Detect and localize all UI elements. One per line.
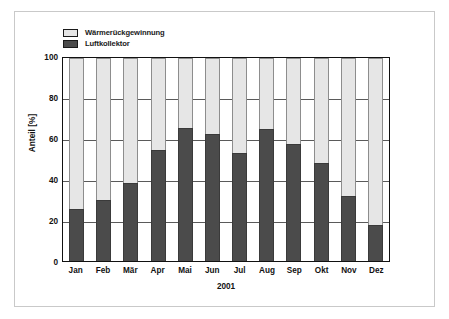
stacked-bar[interactable] — [151, 58, 166, 261]
y-tick-label: 40 — [16, 176, 58, 185]
y-tick-label: 80 — [16, 94, 58, 103]
bar-segment-luftkollektor[interactable] — [205, 134, 220, 261]
chart-legend: Wärmerückgewinnung Luftkollektor — [63, 28, 165, 48]
bar-slot — [362, 58, 389, 261]
bar-slot — [335, 58, 362, 261]
bar-segment-warmerueckgewinnung[interactable] — [123, 58, 138, 183]
bar-segment-luftkollektor[interactable] — [178, 128, 193, 261]
bar-slot — [117, 58, 144, 261]
bar-segment-warmerueckgewinnung[interactable] — [151, 58, 166, 150]
bar-segment-warmerueckgewinnung[interactable] — [286, 58, 301, 144]
plot-area — [62, 57, 390, 262]
bar-segment-warmerueckgewinnung[interactable] — [69, 58, 84, 209]
legend-swatch-warmerueckgewinnung — [63, 29, 78, 37]
bar-segment-luftkollektor[interactable] — [314, 163, 329, 261]
legend-label-warmerueckgewinnung: Wärmerückgewinnung — [85, 28, 165, 37]
bar-segment-luftkollektor[interactable] — [123, 183, 138, 261]
stacked-bar[interactable] — [232, 58, 247, 261]
bar-segment-luftkollektor[interactable] — [286, 144, 301, 261]
bar-slot — [199, 58, 226, 261]
y-tick-label: 20 — [16, 217, 58, 226]
bar-slot — [63, 58, 90, 261]
bar-segment-luftkollektor[interactable] — [232, 153, 247, 261]
x-tick-label: Feb — [89, 266, 116, 275]
bar-segment-warmerueckgewinnung[interactable] — [341, 58, 356, 196]
bar-segment-warmerueckgewinnung[interactable] — [368, 58, 383, 225]
x-tick-label: Dez — [363, 266, 390, 275]
stacked-bar[interactable] — [69, 58, 84, 261]
stacked-bar[interactable] — [341, 58, 356, 261]
stacked-bar[interactable] — [286, 58, 301, 261]
stacked-bar[interactable] — [205, 58, 220, 261]
bar-slot — [90, 58, 117, 261]
bar-segment-luftkollektor[interactable] — [341, 196, 356, 261]
stacked-bar[interactable] — [368, 58, 383, 261]
bar-segment-warmerueckgewinnung[interactable] — [259, 58, 274, 129]
bar-slot — [308, 58, 335, 261]
x-tick-label: Aug — [253, 266, 280, 275]
legend-swatch-luftkollektor — [63, 40, 78, 48]
x-axis-title: 2001 — [62, 282, 390, 291]
stacked-bar[interactable] — [314, 58, 329, 261]
bar-segment-warmerueckgewinnung[interactable] — [178, 58, 193, 128]
x-tick-label: Mär — [117, 266, 144, 275]
x-tick-label: Apr — [144, 266, 171, 275]
bar-segment-luftkollektor[interactable] — [96, 200, 111, 261]
bar-slot — [172, 58, 199, 261]
bar-segment-luftkollektor[interactable] — [69, 209, 84, 261]
y-axis-title: Anteil [%] — [27, 93, 37, 173]
bar-slot — [145, 58, 172, 261]
bar-segment-warmerueckgewinnung[interactable] — [232, 58, 247, 153]
bar-slot — [253, 58, 280, 261]
y-tick-label: 60 — [16, 135, 58, 144]
x-tick-label: Nov — [335, 266, 362, 275]
bar-slot — [226, 58, 253, 261]
bar-segment-warmerueckgewinnung[interactable] — [96, 58, 111, 200]
bar-slot — [280, 58, 307, 261]
x-tick-label: Jan — [62, 266, 89, 275]
stacked-bar[interactable] — [123, 58, 138, 261]
x-tick-label: Jul — [226, 266, 253, 275]
bar-segment-warmerueckgewinnung[interactable] — [314, 58, 329, 163]
stacked-bar[interactable] — [259, 58, 274, 261]
legend-item-warmerueckgewinnung: Wärmerückgewinnung — [63, 28, 165, 37]
x-tick-label: Okt — [308, 266, 335, 275]
stacked-bar[interactable] — [96, 58, 111, 261]
chart-figure: Wärmerückgewinnung Luftkollektor 100 80 … — [0, 0, 449, 319]
y-tick-label: 0 — [16, 258, 58, 267]
stacked-bar[interactable] — [178, 58, 193, 261]
bar-segment-luftkollektor[interactable] — [259, 129, 274, 261]
x-tick-label: Sep — [281, 266, 308, 275]
bar-segment-luftkollektor[interactable] — [368, 225, 383, 261]
y-tick-label: 100 — [16, 53, 58, 62]
legend-label-luftkollektor: Luftkollektor — [85, 39, 130, 48]
legend-item-luftkollektor: Luftkollektor — [63, 39, 165, 48]
x-tick-label: Jun — [199, 266, 226, 275]
bar-group — [63, 58, 389, 261]
bar-segment-warmerueckgewinnung[interactable] — [205, 58, 220, 134]
x-tick-label: Mai — [171, 266, 198, 275]
bar-segment-luftkollektor[interactable] — [151, 150, 166, 261]
x-axis-ticks: JanFebMärAprMaiJunJulAugSepOktNovDez — [62, 266, 390, 275]
